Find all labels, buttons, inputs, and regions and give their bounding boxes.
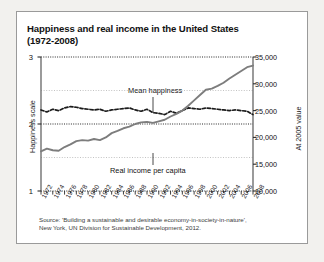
source-note: Source: 'Building a sustainable and desi… xyxy=(39,216,289,232)
source-line-1: Source: 'Building a sustainable and desi… xyxy=(39,216,247,223)
chart-plot-area xyxy=(17,12,309,245)
series-line-0 xyxy=(41,107,253,115)
chart-card: Happiness and real income in the United … xyxy=(16,11,308,244)
gridlines xyxy=(41,57,253,191)
data-series xyxy=(41,66,253,152)
source-line-2: New York, UN Division for Sustainable De… xyxy=(39,224,201,231)
